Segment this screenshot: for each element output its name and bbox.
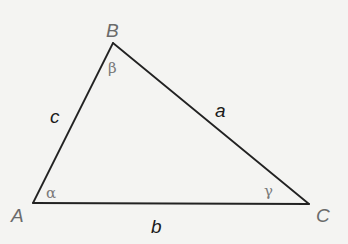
triangle-canvas: A B C a b c α β γ <box>0 0 348 244</box>
angle-gamma-label: γ <box>264 182 273 200</box>
angle-alpha-label: α <box>46 184 56 202</box>
side-c-label: c <box>50 106 60 127</box>
angle-beta-label: β <box>108 59 117 77</box>
side-c-edge <box>33 43 113 203</box>
side-a-edge <box>113 43 309 204</box>
side-b-label: b <box>151 216 162 237</box>
side-b-edge <box>33 203 309 204</box>
vertex-b-label: B <box>106 20 119 41</box>
vertex-c-label: C <box>316 205 330 226</box>
vertex-a-label: A <box>10 205 24 226</box>
triangle-diagram: A B C a b c α β γ <box>0 0 348 244</box>
side-a-label: a <box>215 100 226 121</box>
